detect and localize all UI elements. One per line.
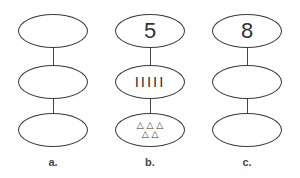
connector (247, 99, 248, 113)
number-five: 5 (144, 20, 156, 42)
connector (150, 99, 151, 113)
connector (53, 99, 54, 113)
diagram-a: a. (13, 0, 93, 178)
triangle-icon: △ △ (142, 130, 159, 139)
number-eight: 8 (241, 20, 253, 42)
middle-ellipse (212, 65, 282, 99)
diagram-label: a. (13, 156, 93, 168)
middle-ellipse: IIIII (115, 65, 185, 99)
tally-marks-icon: IIIII (135, 74, 166, 90)
top-ellipse: 5 (115, 14, 185, 48)
bottom-ellipse: △ △ △ △ △ (115, 113, 185, 147)
diagram-label: c. (207, 156, 287, 168)
diagram-label: b. (110, 156, 190, 168)
top-ellipse: 8 (212, 14, 282, 48)
diagram-c: 8 c. (207, 0, 287, 178)
connector (53, 48, 54, 65)
bottom-ellipse (212, 113, 282, 147)
middle-ellipse (18, 65, 88, 99)
diagram-b: 5 IIIII △ △ △ △ △ b. (110, 0, 190, 178)
bottom-ellipse (18, 113, 88, 147)
connector (247, 48, 248, 65)
connector (150, 48, 151, 65)
top-ellipse (18, 14, 88, 48)
